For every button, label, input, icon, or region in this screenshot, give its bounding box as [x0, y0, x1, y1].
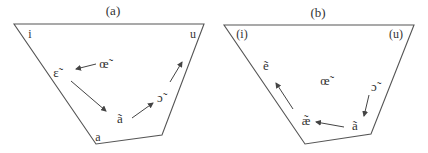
vowel-nasal-oe: œ̃ — [99, 56, 113, 71]
arrow-oe-to-epsilon — [76, 64, 96, 69]
vowel-nasal-epsilon: ε̃ — [53, 65, 63, 80]
corner-label-u: u — [190, 27, 196, 41]
corner-label-i-parenthesized: (i) — [236, 27, 247, 41]
vowel-nasal-a: ã — [117, 111, 123, 126]
corner-label-a: a — [95, 130, 101, 144]
panel-b: (b) (i) (u) ẽ œ̃ ɔ̃ æ̃ ã — [224, 5, 414, 144]
arrow-a-to-ae — [316, 122, 344, 127]
vowel-nasal-open-o: ɔ̃ — [157, 90, 168, 105]
vowel-shift-diagram: (a) i u a ε̃ œ̃ ã ɔ̃ (b) (i) (u) ẽ œ̃ ɔ̃… — [0, 0, 428, 153]
corner-label-u-parenthesized: (u) — [389, 27, 403, 41]
corner-label-i: i — [28, 27, 32, 41]
vowel-nasal-a: ã — [352, 118, 358, 133]
vowel-nasal-ae: æ̃ — [302, 113, 311, 128]
vowel-nasal-oe: œ̃ — [320, 73, 334, 88]
arrow-open-o-to-u — [170, 62, 182, 82]
panel-a-title: (a) — [106, 3, 120, 18]
vowel-nasal-e: ẽ — [263, 58, 269, 73]
arrow-open-o-to-a — [364, 95, 369, 116]
panel-a: (a) i u a ε̃ œ̃ ã ɔ̃ — [14, 3, 204, 144]
vowel-trapezoid-a — [14, 24, 204, 144]
vowel-trapezoid-b — [224, 25, 414, 144]
arrow-a-to-open-o — [132, 103, 153, 118]
vowel-nasal-open-o: ɔ̃ — [371, 79, 382, 94]
arrow-epsilon-to-a — [71, 81, 106, 111]
panel-b-title: (b) — [310, 5, 325, 20]
